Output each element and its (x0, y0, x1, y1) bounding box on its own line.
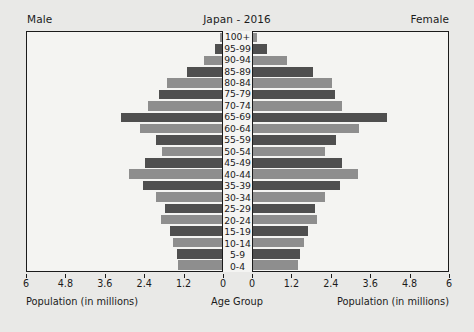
age-group-label: 45-49 (223, 157, 252, 168)
female-bar (253, 56, 287, 66)
age-group-label: 5-9 (223, 249, 252, 260)
male-bar (187, 67, 222, 77)
male-row (27, 78, 222, 89)
male-row (27, 180, 222, 191)
female-bar (253, 124, 359, 134)
male-bar (162, 147, 222, 157)
female-row (253, 225, 448, 236)
age-group-label: 85-89 (223, 65, 252, 76)
male-x-axis: 64.83.62.41.20 (26, 274, 223, 288)
age-group-label: 0-4 (223, 260, 252, 271)
female-axis-title: Population (in millions) (337, 296, 449, 307)
female-bar (253, 181, 340, 191)
female-bar (253, 238, 304, 248)
female-bar (253, 147, 325, 157)
male-row (27, 43, 222, 54)
male-bar (159, 90, 222, 100)
female-row (253, 55, 448, 66)
male-row (27, 214, 222, 225)
age-group-label: 80-84 (223, 77, 252, 88)
male-bar (140, 124, 222, 134)
female-row (253, 248, 448, 259)
male-bar (170, 226, 222, 236)
age-group-label: 15-19 (223, 226, 252, 237)
male-bar (148, 101, 222, 111)
female-bar (253, 192, 325, 202)
male-row (27, 112, 222, 123)
female-axis-tick-label: 2.4 (323, 278, 338, 289)
male-row (27, 237, 222, 248)
female-axis-tick-label: 0 (249, 278, 255, 289)
male-bar (220, 33, 222, 43)
female-row (253, 112, 448, 123)
female-row (253, 260, 448, 271)
female-bar (253, 113, 387, 123)
male-bar (143, 181, 222, 191)
male-row (27, 225, 222, 236)
female-row (253, 123, 448, 134)
female-bar (253, 78, 332, 88)
male-row (27, 260, 222, 271)
male-axis-tick-label: 1.2 (176, 278, 191, 289)
female-bar (253, 215, 317, 225)
male-axis-tick-label: 4.8 (58, 278, 73, 289)
female-bar (253, 44, 267, 54)
male-row (27, 169, 222, 180)
male-axis-tick-label: 0 (220, 278, 226, 289)
female-row (253, 146, 448, 157)
female-bar (253, 90, 335, 100)
male-row (27, 55, 222, 66)
male-row (27, 157, 222, 168)
male-row (27, 66, 222, 77)
age-group-label: 60-64 (223, 123, 252, 134)
female-bar (253, 158, 342, 168)
age-group-label: 70-74 (223, 100, 252, 111)
age-group-label: 10-14 (223, 237, 252, 248)
female-bar (253, 135, 336, 145)
age-group-label: 35-39 (223, 180, 252, 191)
female-axis-tick-label: 1.2 (284, 278, 299, 289)
age-group-label: 55-59 (223, 134, 252, 145)
female-row (253, 191, 448, 202)
age-group-label: 40-44 (223, 169, 252, 180)
female-row (253, 78, 448, 89)
age-group-label: 20-24 (223, 215, 252, 226)
age-group-label: 95-99 (223, 42, 252, 53)
chart-title: Japan - 2016 (0, 13, 474, 25)
male-bar (215, 44, 222, 54)
male-row (27, 203, 222, 214)
female-bar (253, 33, 257, 43)
female-row (253, 89, 448, 100)
female-row (253, 66, 448, 77)
female-bar (253, 67, 313, 77)
male-bar (156, 135, 222, 145)
female-plot-area (252, 31, 449, 272)
male-bar (165, 204, 222, 214)
age-group-label: 25-29 (223, 203, 252, 214)
male-row (27, 134, 222, 145)
female-row (253, 214, 448, 225)
male-row (27, 89, 222, 100)
age-group-axis: 100+95-9990-9485-8980-8475-7970-7465-696… (223, 31, 252, 272)
female-bar (253, 249, 300, 259)
female-row (253, 157, 448, 168)
male-row (27, 248, 222, 259)
female-bar (253, 169, 358, 179)
male-bar (161, 215, 222, 225)
male-bar (178, 260, 222, 270)
male-plot-area (26, 31, 223, 272)
female-row (253, 100, 448, 111)
female-bar (253, 101, 342, 111)
female-row (253, 43, 448, 54)
female-row (253, 237, 448, 248)
male-bar (145, 158, 222, 168)
male-bar (177, 249, 222, 259)
male-row (27, 191, 222, 202)
female-row (253, 32, 448, 43)
female-x-axis: 01.22.43.64.86 (252, 274, 449, 288)
age-group-label: 100+ (223, 31, 252, 42)
male-axis-tick-label: 3.6 (97, 278, 112, 289)
male-bar (121, 113, 222, 123)
female-bar (253, 260, 298, 270)
male-bar-rows (27, 32, 222, 271)
